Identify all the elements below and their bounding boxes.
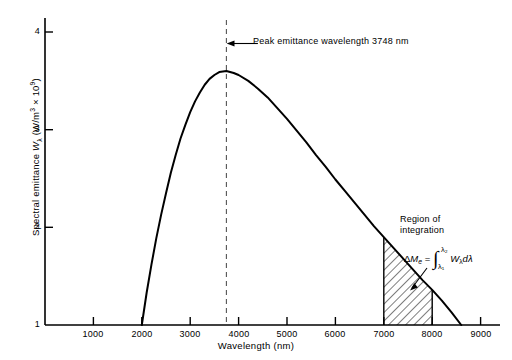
x-tick-label-3000: 3000 bbox=[168, 329, 212, 339]
chart-canvas bbox=[0, 0, 512, 360]
y-axis-label-units-close: ) bbox=[30, 78, 41, 81]
x-tick-label-4000: 4000 bbox=[217, 329, 261, 339]
region-label-line1: Region of bbox=[400, 214, 444, 225]
x-tick-label-5000: 5000 bbox=[265, 329, 309, 339]
y-axis-label-units-exp: 3 bbox=[29, 108, 36, 112]
formula-integral-group: ∫λ₂λ₁ bbox=[433, 248, 445, 270]
region-of-integration-label: Region of integration bbox=[400, 214, 444, 236]
integral-lower-limit: λ₁ bbox=[438, 262, 444, 271]
y-axis-label-units-open: (W/m bbox=[30, 112, 41, 138]
y-axis-ticks bbox=[45, 32, 53, 227]
integral-formula: ΔMe = ∫λ₂λ₁ Wλdλ bbox=[404, 248, 473, 270]
x-tick-label-1000: 1000 bbox=[71, 329, 115, 339]
y-axis-label-symbol-sub: λ bbox=[36, 138, 43, 142]
x-tick-label-8000: 8000 bbox=[410, 329, 454, 339]
formula-m-sub: e bbox=[418, 258, 422, 265]
x-axis-label: Wavelength (nm) bbox=[0, 340, 512, 351]
formula-differential: dλ bbox=[463, 253, 473, 264]
y-axis-label-units-exp2: 9 bbox=[29, 81, 36, 85]
x-tick-label-6000: 6000 bbox=[313, 329, 357, 339]
axes bbox=[45, 18, 500, 325]
y-tick-label-1: 1 bbox=[26, 319, 40, 329]
formula-equals: = bbox=[425, 253, 431, 264]
integral-upper-limit: λ₂ bbox=[441, 245, 448, 254]
formula-integrand: W bbox=[450, 253, 459, 264]
y-axis-label-units-mid: × 10 bbox=[30, 85, 41, 107]
x-tick-label-9000: 9000 bbox=[459, 329, 503, 339]
x-tick-label-2000: 2000 bbox=[120, 329, 164, 339]
y-axis-label-symbol: W bbox=[30, 142, 41, 151]
y-axis-label-prefix: Spectral emittance bbox=[30, 151, 41, 236]
x-tick-label-7000: 7000 bbox=[362, 329, 406, 339]
blackbody-spectral-emittance-figure: 4 3 2 1 1000 2000 3000 4000 5000 6000 70… bbox=[0, 0, 512, 360]
peak-emittance-annotation: Peak emittance wavelength 3748 nm bbox=[253, 36, 409, 46]
y-axis-label: Spectral emittance Wλ (W/m3 × 109) bbox=[29, 27, 43, 287]
region-label-line2: integration bbox=[400, 225, 444, 236]
